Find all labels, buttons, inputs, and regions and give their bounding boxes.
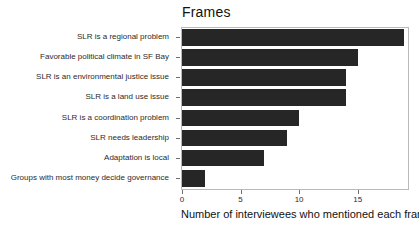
- x-axis-tick: [358, 190, 359, 194]
- bar: [182, 150, 264, 167]
- bar-row: [182, 109, 408, 129]
- y-axis-tick: [176, 57, 180, 58]
- y-axis-tick: [176, 138, 180, 139]
- x-axis-tick-label: 15: [353, 195, 362, 204]
- x-axis-tick-label: 5: [238, 195, 242, 204]
- bar: [182, 130, 287, 147]
- y-axis-tick: [176, 37, 180, 38]
- bar: [182, 49, 358, 66]
- x-axis-tick: [241, 190, 242, 194]
- bar-row: [182, 68, 408, 88]
- y-axis-label: SLR is a land use issue: [85, 87, 169, 107]
- x-axis-tick: [299, 190, 300, 194]
- y-axis-label: SLR is an environmental justice issue: [36, 67, 169, 87]
- bar: [182, 110, 299, 127]
- bar: [182, 29, 404, 46]
- y-axis-tick: [176, 118, 180, 119]
- x-axis-tick-label: 10: [295, 195, 304, 204]
- bar: [182, 69, 346, 86]
- bar: [182, 89, 346, 106]
- y-axis-label: SLR is a coordination problem: [62, 108, 169, 128]
- y-axis-label: Favorable political climate in SF Bay: [40, 47, 169, 67]
- chart-title: Frames: [182, 4, 231, 20]
- plot-panel: [181, 27, 409, 190]
- bar: [182, 170, 205, 187]
- x-axis-tick-label: 0: [180, 195, 184, 204]
- y-axis-label: SLR needs leadership: [90, 128, 169, 148]
- y-axis-tick: [176, 97, 180, 98]
- y-axis-tick: [176, 77, 180, 78]
- y-axis-tick: [176, 178, 180, 179]
- bar-row: [182, 169, 408, 189]
- bar-row: [182, 28, 408, 48]
- bar-chart: Frames SLR is a regional problemFavorabl…: [0, 0, 419, 229]
- x-axis-title: Number of interviewees who mentioned eac…: [181, 207, 417, 221]
- y-axis-label: Adaptation is local: [104, 148, 169, 168]
- y-axis-label: SLR is a regional problem: [77, 27, 169, 47]
- bar-row: [182, 48, 408, 68]
- y-axis-tick: [176, 158, 180, 159]
- bar-row: [182, 88, 408, 108]
- bar-row: [182, 149, 408, 169]
- y-axis-label: Groups with most money decide governance: [11, 168, 169, 188]
- y-axis-category-labels: SLR is a regional problemFavorable polit…: [0, 27, 175, 190]
- bar-row: [182, 129, 408, 149]
- x-axis-tick: [182, 190, 183, 194]
